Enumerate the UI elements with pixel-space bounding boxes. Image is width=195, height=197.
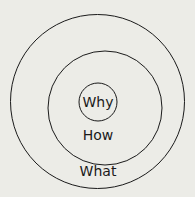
label-what: What: [80, 163, 117, 179]
label-why: Why: [82, 94, 113, 110]
golden-circle-diagram: Why How What: [0, 0, 195, 197]
label-how: How: [83, 127, 114, 143]
